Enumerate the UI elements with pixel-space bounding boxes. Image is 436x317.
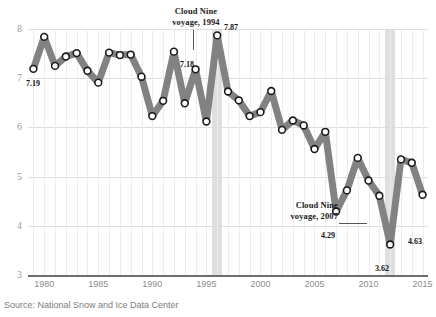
annotation-1994-line1: Cloud Nine	[138, 6, 254, 17]
data-point-1996	[214, 32, 221, 39]
point-label-1979: 7.19	[26, 79, 40, 88]
data-point-1998	[235, 97, 242, 104]
data-point-2002	[279, 126, 286, 133]
data-point-1997	[225, 88, 232, 95]
data-point-1991	[160, 97, 167, 104]
point-label-1994: 7.18	[180, 60, 194, 69]
point-label-2015: 4.63	[408, 237, 422, 246]
data-point-2012	[387, 241, 394, 248]
data-point-1988	[127, 51, 134, 58]
data-point-1995	[203, 118, 210, 125]
point-label-2012: 3.62	[375, 264, 389, 273]
data-point-1989	[138, 73, 145, 80]
data-point-2003	[289, 117, 296, 124]
data-point-2006	[322, 128, 329, 135]
data-point-1981	[52, 63, 59, 70]
data-point-2013	[398, 156, 405, 163]
data-point-1982	[62, 53, 69, 60]
data-point-1983	[73, 50, 80, 57]
data-point-2004	[300, 122, 307, 129]
data-point-1993	[181, 100, 188, 107]
sea-ice-extent-line	[33, 35, 422, 244]
data-point-1979	[30, 65, 37, 72]
data-point-1992	[171, 48, 178, 55]
annotation-2007-leader-line	[339, 223, 367, 224]
source-note: Source: National Snow and Ice Data Cente…	[4, 300, 179, 310]
data-point-2000	[257, 109, 264, 116]
data-point-2001	[268, 88, 275, 95]
data-point-2014	[408, 159, 415, 166]
annotation-2007-line1: Cloud Nine	[238, 200, 338, 211]
data-point-2015	[419, 191, 426, 198]
chart-figure: 345678 19801985199019952000200520102015 …	[0, 0, 436, 317]
data-point-1999	[246, 113, 253, 120]
data-point-1980	[41, 33, 48, 40]
annotation-cloud-nine-2007: Cloud Nine voyage, 2007	[238, 200, 338, 222]
data-point-2009	[354, 155, 361, 162]
data-point-1987	[116, 52, 123, 59]
data-point-1984	[84, 67, 91, 74]
line-series-svg	[0, 0, 436, 317]
annotation-2007-line2: voyage, 2007	[238, 211, 338, 222]
data-point-2011	[376, 192, 383, 199]
annotation-1994-leader-line	[193, 30, 194, 50]
data-point-1986	[106, 49, 113, 56]
point-label-1996: 7.87	[224, 23, 238, 32]
data-point-2005	[311, 146, 318, 153]
data-point-2010	[365, 177, 372, 184]
data-point-1985	[95, 79, 102, 86]
point-label-2007: 4.29	[321, 231, 335, 240]
data-point-2008	[344, 187, 351, 194]
data-point-1990	[149, 113, 156, 120]
